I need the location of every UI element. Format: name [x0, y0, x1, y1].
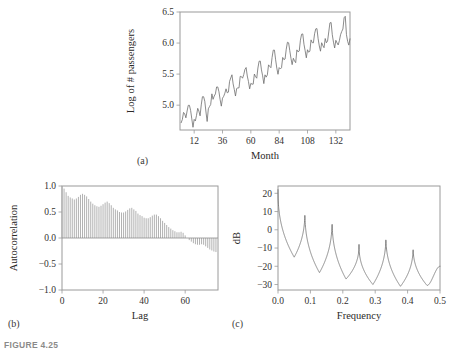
svg-text:0.0: 0.0	[272, 296, 284, 306]
svg-text:0: 0	[267, 225, 272, 235]
svg-text:12: 12	[189, 136, 199, 146]
svg-text:108: 108	[300, 136, 315, 146]
svg-text:6.0: 6.0	[162, 38, 174, 48]
svg-text:60: 60	[246, 136, 256, 146]
svg-text:0.0: 0.0	[44, 233, 56, 243]
svg-text:Frequency: Frequency	[337, 310, 382, 321]
svg-text:5.0: 5.0	[162, 100, 174, 110]
svg-text:60: 60	[180, 296, 190, 306]
svg-text:0.3: 0.3	[369, 296, 381, 306]
svg-text:−30: −30	[257, 280, 272, 290]
svg-text:132: 132	[329, 136, 344, 146]
svg-text:40: 40	[139, 296, 149, 306]
svg-text:5.5: 5.5	[162, 69, 174, 79]
panel-a-log-passengers-timeseries: 5.05.56.06.512366084108132MonthLog of # …	[118, 2, 358, 174]
svg-text:0.5: 0.5	[44, 207, 56, 217]
svg-text:−10: −10	[257, 243, 272, 253]
svg-text:1.0: 1.0	[44, 181, 56, 191]
log-passengers-line-chart: 5.05.56.06.512366084108132MonthLog of # …	[118, 2, 358, 174]
panel-label-a: (a)	[137, 155, 148, 166]
svg-text:20: 20	[263, 189, 273, 199]
svg-text:6.5: 6.5	[162, 7, 174, 17]
svg-text:Lag: Lag	[132, 310, 149, 321]
svg-text:0.4: 0.4	[402, 296, 414, 306]
svg-text:0.5: 0.5	[434, 296, 446, 306]
svg-text:20: 20	[98, 296, 108, 306]
figure-caption: FIGURE 4.25	[4, 340, 58, 350]
svg-text:36: 36	[218, 136, 228, 146]
svg-text:0: 0	[60, 296, 65, 306]
svg-text:84: 84	[274, 136, 284, 146]
autocorrelation-bar-chart: −1.0−0.50.00.51.00204060LagAutocorrelati…	[2, 176, 228, 334]
panel-b-autocorrelation: −1.0−0.50.00.51.00204060LagAutocorrelati…	[2, 176, 228, 334]
panel-label-b: (b)	[8, 318, 20, 329]
panel-c-spectrum: −30−20−10010200.00.10.20.30.40.5Frequenc…	[226, 176, 452, 334]
svg-text:10: 10	[263, 207, 273, 217]
svg-text:dB: dB	[231, 232, 242, 244]
svg-text:−1.0: −1.0	[39, 285, 56, 295]
svg-text:−20: −20	[257, 262, 272, 272]
svg-text:0.2: 0.2	[337, 296, 349, 306]
svg-text:Month: Month	[251, 150, 280, 161]
svg-text:0.1: 0.1	[304, 296, 316, 306]
svg-text:−0.5: −0.5	[39, 259, 56, 269]
panel-label-c: (c)	[232, 318, 243, 329]
svg-text:Log of # passengers: Log of # passengers	[125, 29, 136, 113]
spectrum-line-chart: −30−20−10010200.00.10.20.30.40.5Frequenc…	[226, 176, 452, 334]
svg-text:Autocorrelation: Autocorrelation	[8, 204, 19, 271]
